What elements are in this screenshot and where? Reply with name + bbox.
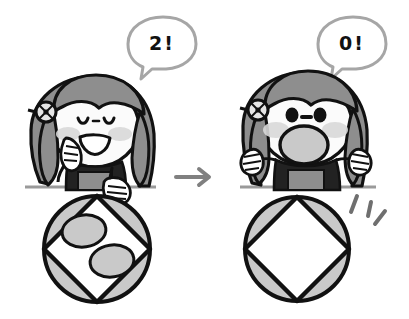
character-right (240, 71, 371, 190)
skirt-right (288, 170, 324, 190)
illustration-svg: 2! (0, 0, 409, 319)
figure-left (44, 196, 150, 302)
eye-left-open (286, 108, 299, 123)
hand-raised-right (349, 149, 372, 175)
hand-raised-left (241, 149, 264, 175)
speech-bubble-left-text: 2! (149, 32, 175, 54)
figure-right (245, 197, 349, 301)
eye-right-open (314, 108, 327, 123)
illustration-canvas: 2! (0, 0, 409, 319)
blush-right-cheek (108, 127, 132, 141)
speech-bubble-right-text: 0! (339, 32, 365, 54)
mouth-open-surprised (280, 126, 328, 164)
